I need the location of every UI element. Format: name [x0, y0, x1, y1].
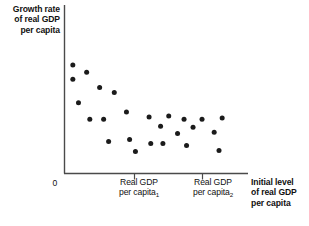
data-point	[147, 115, 152, 120]
data-point	[101, 117, 106, 122]
data-point	[182, 117, 187, 122]
axis-lines	[64, 5, 248, 174]
plot-area	[0, 0, 309, 226]
data-point	[70, 63, 75, 68]
data-point	[133, 149, 138, 154]
data-point	[97, 85, 102, 90]
data-point	[160, 141, 165, 146]
x-tick-marks	[135, 174, 203, 180]
data-point	[217, 148, 222, 153]
data-point	[70, 77, 75, 82]
data-point	[76, 100, 81, 105]
data-point	[191, 125, 196, 130]
data-point	[87, 117, 92, 122]
data-point	[106, 139, 111, 144]
data-point	[175, 131, 180, 136]
data-point	[84, 70, 89, 75]
data-point	[127, 137, 132, 142]
data-point	[124, 109, 129, 114]
data-point	[212, 130, 217, 135]
data-point	[112, 90, 117, 95]
data-point-group	[70, 63, 224, 155]
scatter-chart-figure: Growth rate of real GDP per capita Initi…	[0, 0, 309, 226]
data-point	[166, 114, 171, 119]
data-point	[200, 117, 205, 122]
data-point	[184, 143, 189, 148]
data-point	[220, 116, 225, 121]
data-point	[148, 141, 153, 146]
data-point	[158, 124, 163, 129]
